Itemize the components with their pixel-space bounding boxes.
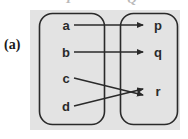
element-r: r — [150, 85, 166, 98]
set-boundary-right — [121, 14, 178, 125]
mapping-diagram-figure: (a) P Q a b c d p q r — [0, 0, 188, 139]
element-d: d — [58, 100, 74, 113]
element-a: a — [58, 19, 74, 32]
arrow-c-to-r — [74, 78, 143, 95]
element-c: c — [58, 72, 74, 85]
element-p: p — [150, 19, 166, 32]
element-b: b — [58, 46, 74, 59]
element-q: q — [150, 46, 166, 59]
arrow-d-to-r — [74, 89, 143, 106]
